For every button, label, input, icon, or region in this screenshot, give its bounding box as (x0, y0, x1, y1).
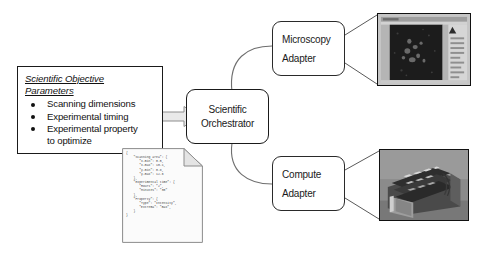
connector-orchestrator-to-compute (231, 143, 272, 184)
params-box-title: Scientific Objective Parameters (25, 73, 156, 97)
list-item: Scanning dimensions (25, 98, 156, 110)
scientific-orchestrator-box: Scientific Orchestrator (186, 89, 269, 144)
connector-microscopy-to-photo-top (345, 15, 377, 35)
list-item: Experimental property to optimize (25, 123, 156, 148)
microscopy-adapter-line1: Microscopy (282, 30, 331, 49)
params-title-line2: Parameters (25, 85, 74, 96)
compute-hardware-photo (379, 149, 469, 221)
json-code-text: { "Scanning area": { "x-min": 0.5, "x-ma… (126, 151, 201, 240)
list-item-label: Experimental property (47, 123, 138, 134)
scientific-objective-parameters-box: Scientific Objective Parameters Scanning… (17, 66, 163, 154)
list-item-label: Scanning dimensions (47, 98, 135, 109)
connector-compute-to-photo-bottom (345, 198, 379, 219)
orchestrator-line2: Orchestrator (201, 117, 254, 131)
microscopy-adapter-box: Microscopy Adapter (272, 21, 345, 76)
list-item-label-continuation: to optimize (47, 135, 156, 147)
bullet-icon (31, 103, 35, 107)
compute-adapter-line2: Adapter (282, 184, 316, 203)
list-item-label: Experimental timing (47, 111, 128, 122)
params-list: Scanning dimensions Experimental timing … (25, 98, 156, 147)
microscopy-software-screenshot (377, 13, 471, 86)
compute-adapter-line1: Compute (282, 165, 321, 184)
params-title-line1: Scientific Objective (25, 73, 104, 84)
microscopy-adapter-line2: Adapter (282, 49, 316, 68)
diagram-canvas: Scientific Objective Parameters Scanning… (0, 0, 479, 255)
compute-adapter-box: Compute Adapter (272, 156, 345, 211)
bullet-icon (31, 127, 35, 131)
connector-microscopy-to-photo-bottom (345, 63, 377, 84)
connector-compute-to-photo-top (345, 151, 379, 170)
objective-parameters-json-note: { "Scanning area": { "x-min": 0.5, "x-ma… (122, 148, 203, 243)
bullet-icon (31, 115, 35, 119)
list-item: Experimental timing (25, 111, 156, 123)
orchestrator-line1: Scientific (208, 103, 246, 117)
connector-orchestrator-to-microscopy (231, 46, 272, 92)
